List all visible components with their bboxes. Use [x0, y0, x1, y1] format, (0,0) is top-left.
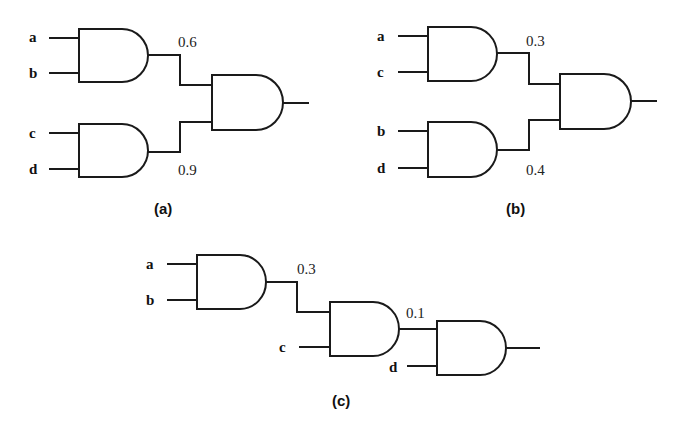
diagram-b: a c b d 0.3 0.4 (b) [377, 27, 657, 217]
input-label-a: a [377, 28, 385, 44]
input-label-c: c [29, 125, 36, 141]
and-gate-diagrams: a b c d 0.6 0.9 (a) a c b d 0.3 0.4 (b) [0, 0, 683, 429]
caption-b: (b) [506, 200, 525, 217]
and-gate-icon [428, 27, 497, 81]
input-label-a: a [146, 256, 154, 272]
input-label-c: c [377, 64, 384, 80]
input-label-d: d [389, 359, 398, 375]
probability-label: 0.3 [526, 33, 545, 49]
input-label-b: b [377, 123, 385, 139]
and-gate-icon [79, 29, 148, 82]
and-gate-icon [428, 122, 497, 177]
input-label-b: b [146, 292, 154, 308]
and-gate-icon [560, 74, 631, 129]
and-gate-icon [437, 321, 506, 375]
input-label-d: d [377, 160, 386, 176]
diagram-svg: a b c d 0.6 0.9 (a) a c b d 0.3 0.4 (b) [0, 0, 683, 429]
diagram-c: a b c d 0.3 0.1 (c) [146, 255, 540, 409]
and-gate-icon [79, 124, 148, 177]
caption-c: (c) [332, 392, 350, 409]
input-label-a: a [29, 29, 37, 45]
input-label-b: b [29, 65, 37, 81]
probability-label: 0.6 [178, 34, 197, 50]
probability-label: 0.4 [526, 162, 545, 178]
wire-gate2-to-gate3 [497, 120, 560, 150]
and-gate-icon [330, 302, 399, 356]
wire-gate1-to-gate3 [497, 53, 560, 84]
and-gate-icon [197, 255, 266, 309]
probability-label: 0.9 [178, 162, 197, 178]
probability-label: 0.3 [297, 261, 316, 277]
input-label-c: c [279, 339, 286, 355]
probability-label: 0.1 [406, 305, 425, 321]
wire-gate1-to-gate3 [148, 55, 212, 85]
caption-a: (a) [154, 200, 172, 217]
wire-gate2-to-gate3 [148, 122, 212, 152]
wire-gate1-to-gate2 [266, 282, 330, 312]
diagram-a: a b c d 0.6 0.9 (a) [29, 29, 309, 217]
input-label-d: d [29, 161, 38, 177]
and-gate-icon [212, 75, 283, 130]
